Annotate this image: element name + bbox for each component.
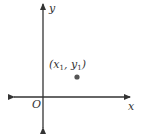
point-label: (x1, y1) xyxy=(49,58,86,72)
coordinate-plane: y x O (x1, y1) xyxy=(0,0,144,136)
y-axis-label: y xyxy=(48,2,56,15)
point-marker xyxy=(74,74,79,79)
origin-label: O xyxy=(32,98,41,111)
x-axis-label: x xyxy=(128,100,135,113)
